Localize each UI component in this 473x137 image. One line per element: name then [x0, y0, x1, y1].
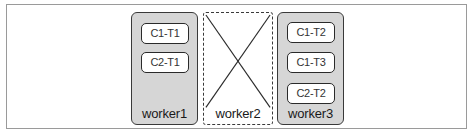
worker1-label: worker1 — [132, 106, 197, 121]
task-c1-t3: C1-T3 — [287, 52, 335, 73]
task-c1-t1: C1-T1 — [141, 23, 189, 44]
task-c2-t1: C2-T1 — [141, 52, 189, 73]
worker3-box: C1-T2 C1-T3 C2-T2 worker3 — [277, 12, 344, 125]
worker1-box: C1-T1 C2-T1 worker1 — [131, 12, 198, 125]
worker3-label: worker3 — [278, 106, 343, 121]
task-c2-t2: C2-T2 — [287, 83, 335, 104]
worker2-label: worker2 — [204, 106, 272, 121]
worker2-box: worker2 — [203, 12, 273, 125]
task-c1-t2: C1-T2 — [287, 22, 335, 43]
